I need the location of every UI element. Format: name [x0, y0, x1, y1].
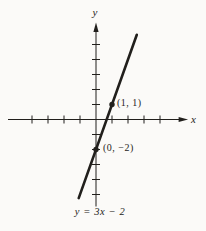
x-axis-arrow-icon: [179, 117, 189, 122]
point-label-0-neg2: (0, −2): [103, 143, 134, 153]
plot-svg: [0, 0, 206, 231]
equation-label: y = 3x − 2: [56, 207, 144, 218]
y-axis-arrow-icon: [93, 23, 98, 33]
figure-canvas: y x (1, 1) (0, −2) y = 3x − 2: [0, 0, 206, 231]
data-point: [109, 102, 114, 107]
data-point: [93, 147, 98, 152]
x-axis-label: x: [191, 114, 196, 125]
point-label-1-1: (1, 1): [117, 98, 142, 108]
y-axis-label: y: [86, 7, 104, 18]
